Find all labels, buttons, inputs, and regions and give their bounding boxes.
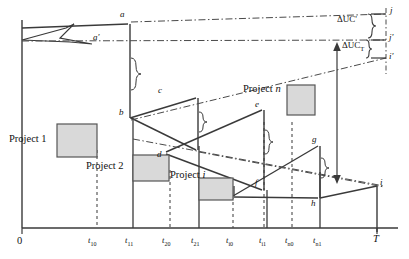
- project-n-block: [287, 85, 315, 115]
- point-label-h: h: [311, 199, 316, 208]
- brace-riser-b: [131, 58, 141, 90]
- reference-lines: [22, 14, 386, 187]
- tick-label-tn0: tn0: [285, 236, 293, 247]
- measure-ticks: [371, 14, 386, 58]
- project-label-n: Project n: [243, 84, 281, 95]
- brace-delta-uc-prime: [368, 14, 376, 38]
- tick-label-t21: t21: [191, 236, 199, 247]
- point-label-c: c: [158, 86, 162, 95]
- tick-label-t20: t20: [162, 236, 170, 247]
- project-label-i: Project i: [170, 170, 205, 181]
- point-label-d: d: [157, 150, 162, 159]
- project-i-block: [199, 178, 233, 200]
- axis-end-label: T: [373, 234, 379, 245]
- measure-label-delta-uc: ΔUCT: [342, 41, 364, 52]
- measure-delta-uc-sub: T: [360, 45, 364, 52]
- project-label-i-index: i: [202, 169, 205, 180]
- tick-label-t11: t11: [125, 236, 133, 247]
- tick-label-tn1: tn1: [313, 236, 321, 247]
- point-label-g: g: [312, 135, 317, 144]
- point-label-i-prime: i': [389, 52, 393, 61]
- tick-label-ti1: ti1: [259, 236, 266, 247]
- project-2-block: [133, 155, 169, 181]
- point-label-b: b: [119, 108, 124, 117]
- point-label-i: i: [380, 178, 383, 187]
- measure-delta-uc-text: ΔUC: [342, 40, 360, 50]
- x-axis-ticks: [22, 228, 377, 234]
- point-label-e: e: [255, 100, 259, 109]
- axis-origin-label: 0: [17, 236, 22, 247]
- span-arrow: [333, 42, 341, 184]
- point-label-f: f: [255, 178, 258, 187]
- brace-delta-uc: [366, 40, 372, 58]
- tick-label-ti0: ti0: [226, 236, 233, 247]
- diagram-canvas: a a' b c d e f g h i i' j j' ΔUC' ΔUCT P…: [0, 0, 409, 259]
- brace-riser-e: [265, 130, 273, 154]
- point-label-a-prime: a': [93, 33, 99, 42]
- tick-label-t10: t10: [88, 236, 96, 247]
- measure-label-delta-uc-prime: ΔUC': [337, 15, 357, 24]
- point-label-j: j: [390, 6, 393, 15]
- point-label-a: a: [120, 10, 125, 19]
- project-1-block: [57, 124, 97, 157]
- point-label-j-prime: j': [389, 33, 393, 42]
- project-label-1: Project 1: [9, 134, 47, 145]
- project-label-n-index: n: [275, 83, 280, 94]
- brace-riser-c: [199, 112, 207, 132]
- diagram-svg: [0, 0, 409, 259]
- project-label-2: Project 2: [86, 161, 124, 172]
